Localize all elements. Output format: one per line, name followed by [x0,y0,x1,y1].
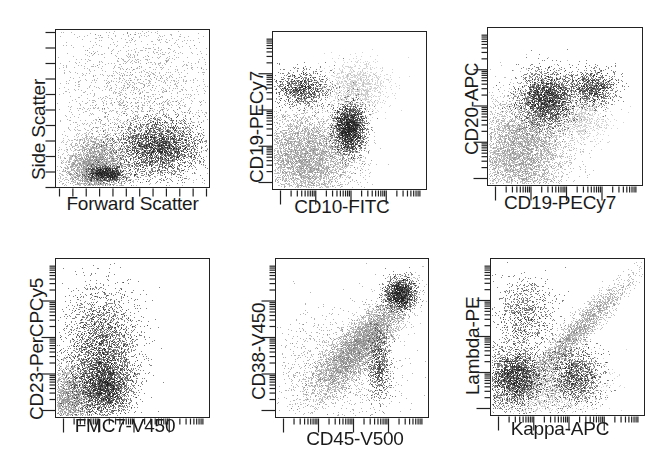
scatter-points [491,259,643,414]
y-axis-label: Lambda-PE [462,296,484,395]
scatter-points [488,28,641,184]
scatter-points [273,32,425,188]
scatter-plot-area [55,258,210,418]
x-axis-label: FMC7-V450 [55,415,195,437]
y-axis-label: CD19-PECy7 [246,71,268,183]
scatter-plot-area [275,258,429,418]
x-axis-label: CD10-FITC [262,196,422,218]
x-axis-label: Kappa-APC [500,418,620,440]
scatter-plot-area [487,27,643,186]
scatter-plot-area [272,31,427,190]
scatter-plot-area [490,258,645,416]
y-axis-label: Side Scatter [28,79,50,180]
y-axis-label: CD38-V450 [248,303,270,400]
scatter-points [56,259,208,416]
x-axis-label: CD19-PECy7 [480,192,640,214]
y-axis-label: CD23-PerCPCy5 [26,278,48,420]
scatter-points [276,259,427,416]
scatter-plot-area [55,29,210,188]
scatter-points [56,30,208,186]
x-axis-label: Forward Scatter [45,193,220,215]
y-axis-label: CD20-APC [461,63,483,155]
x-axis-label: CD45-V500 [290,428,420,450]
